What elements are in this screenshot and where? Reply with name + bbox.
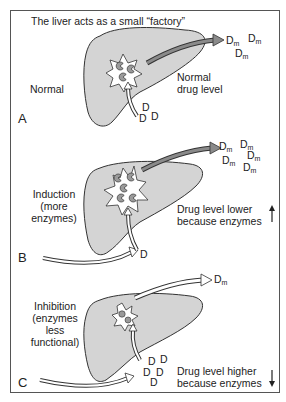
panel-c-inflow-curve <box>40 373 134 386</box>
panel-c-outcome-line1: Drug level higher <box>177 365 256 377</box>
panel-c-letter: C <box>18 377 27 389</box>
metabolite-label: D <box>226 34 234 46</box>
metabolite-subscript: m <box>222 279 228 286</box>
panel-c-down-arrow-icon <box>269 370 275 387</box>
metabolite-label: D <box>247 149 255 161</box>
metabolite-label: D <box>248 32 256 44</box>
drug-label: D <box>139 112 147 124</box>
drug-label: D <box>160 353 168 365</box>
panel-c-condition-line3: less <box>30 324 80 336</box>
metabolite-label: D <box>214 273 222 285</box>
metabolite-subscript: m <box>234 40 240 47</box>
panel-c-outcome-line2: because enzymes <box>177 377 262 389</box>
metabolite-label: D <box>235 47 243 59</box>
metabolite-subscript: m <box>227 146 233 153</box>
panel-b-letter: B <box>18 252 27 264</box>
panel-b-outcome-line2: because enzymes <box>177 215 262 227</box>
panel-a-outcome-line1: Normal <box>177 71 211 83</box>
metabolite-label: D <box>243 161 251 173</box>
panel-b-outcome-line1: Drug level lower <box>177 203 252 215</box>
panel-b-condition-line1: Induction <box>28 188 80 200</box>
panel-a-letter: A <box>18 113 27 125</box>
panel-b-inflow-curve <box>43 247 138 263</box>
diagram-title: The liver acts as a small “factory” <box>31 15 185 27</box>
metabolite-subscript: m <box>251 167 257 174</box>
panel-c-condition-line1: Inhibition <box>30 300 80 312</box>
metabolite-subscript: m <box>230 160 236 167</box>
metabolite-label: D <box>222 154 230 166</box>
drug-label: D <box>140 248 148 260</box>
metabolite-subscript: m <box>256 38 262 45</box>
panel-b-condition-line2: (more <box>28 200 80 212</box>
panel-b-condition-line3: enzymes) <box>28 212 80 224</box>
panel-c-condition-line2: (enzymes <box>30 312 80 324</box>
panel-c-condition-line4: functional) <box>30 336 80 348</box>
panel-b-up-arrow-icon <box>269 205 275 222</box>
metabolite-subscript: m <box>243 53 249 60</box>
metabolite-label: D <box>219 140 227 152</box>
panel-a-outcome-line2: drug level <box>177 83 223 95</box>
panel-a-condition: Normal <box>30 83 64 95</box>
drug-label: D <box>151 110 159 122</box>
panel-c-metabolite: Dm <box>214 273 227 289</box>
drug-label: D <box>150 376 158 388</box>
